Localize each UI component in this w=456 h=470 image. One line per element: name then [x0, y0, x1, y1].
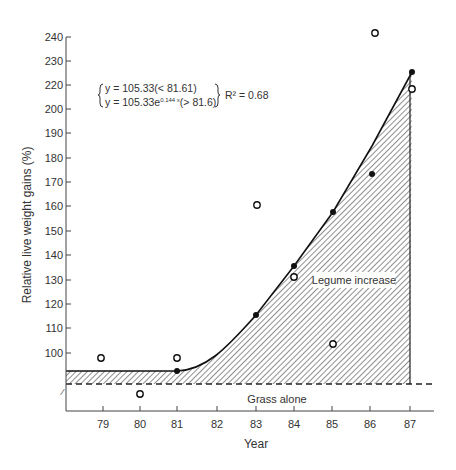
y-tick-label: 110: [45, 322, 63, 334]
y-tick-label: 190: [45, 127, 63, 139]
chart: ⁄ 240 230 220 200 190 180 170 160 150 14…: [0, 0, 456, 470]
x-tick-label: 87: [404, 418, 416, 430]
data-point-filled: [174, 368, 180, 374]
equation-2-exponent: 0.144 x: [160, 97, 180, 103]
equation-1: y = 105.33(< 81.61): [105, 82, 197, 94]
x-tick-label: 80: [134, 418, 146, 430]
data-point-filled: [369, 171, 375, 177]
x-tick-label: 85: [326, 418, 338, 430]
legume-increase-label: Legume increase: [312, 274, 396, 286]
data-point-filled: [253, 312, 259, 318]
data-point-filled: [409, 69, 415, 75]
r-squared: R² = 0.68: [225, 89, 269, 101]
data-point-open: [174, 355, 180, 361]
x-tick-label: 84: [288, 418, 300, 430]
x-ticks: 79 80 81 82 83 84 85 86 87: [97, 406, 416, 430]
y-axis-title: Relative live weight gains (%): [20, 147, 34, 304]
y-tick-label: 200: [45, 103, 63, 115]
y-tick-label: 180: [45, 152, 63, 164]
equation-2-prefix: y = 105.33e: [105, 96, 160, 108]
equation-annotation: y = 105.33(< 81.61) y = 105.33e0.144 x(>…: [98, 82, 269, 108]
data-point-open: [98, 355, 104, 361]
x-tick-label: 81: [171, 418, 183, 430]
data-point-open: [291, 274, 297, 280]
y-ticks: 240 230 220 200 190 180 170 160 150 140 …: [45, 31, 71, 359]
data-point-open: [254, 202, 260, 208]
data-point-filled: [330, 209, 336, 215]
data-point-open: [137, 391, 143, 397]
y-tick-label: 120: [45, 298, 63, 310]
y-tick-label: 230: [45, 55, 63, 67]
data-point-open: [409, 86, 415, 92]
y-tick-label: 100: [45, 347, 63, 359]
x-axis-title: Year: [244, 437, 268, 451]
y-tick-label: 150: [45, 225, 63, 237]
svg-text:y = 105.33e0.144 x(> 81.6): y = 105.33e0.144 x(> 81.6): [105, 96, 216, 108]
y-tick-label: 220: [45, 79, 63, 91]
data-point-open: [330, 341, 336, 347]
y-tick-label: 130: [45, 274, 63, 286]
x-tick-label: 82: [211, 418, 223, 430]
y-tick-label: 160: [45, 200, 63, 212]
x-tick-label: 86: [364, 418, 376, 430]
axis-break-icon: ⁄: [60, 387, 65, 397]
x-tick-label: 79: [97, 418, 109, 430]
x-tick-label: 83: [250, 418, 262, 430]
equation-2-suffix: (> 81.6): [180, 96, 216, 108]
legume-increase-area: [66, 72, 412, 384]
y-tick-label: 140: [45, 249, 63, 261]
y-tick-label: 170: [45, 176, 63, 188]
data-point-open: [372, 30, 378, 36]
data-point-filled: [291, 263, 297, 269]
grass-alone-label: Grass alone: [247, 393, 306, 405]
y-tick-label: 240: [45, 31, 63, 43]
